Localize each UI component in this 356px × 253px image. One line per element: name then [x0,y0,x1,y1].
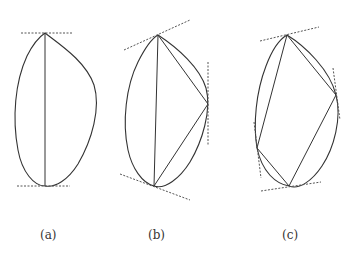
caption-a: (a) [40,228,57,242]
closed-curve-b [125,35,208,187]
closed-curve-c [255,35,338,187]
tangent-right-c [333,68,340,120]
diagram-canvas [0,0,356,253]
caption-c: (c) [282,228,298,242]
figure-c [254,27,340,191]
tangent-left-c [254,122,261,178]
chord-top-right-b [158,35,208,104]
caption-c-text: (c) [282,228,298,242]
caption-b: (b) [148,228,165,242]
chord-top-bottom-b [154,35,158,186]
tangent-top-c [260,27,319,41]
tangent-top-b [124,20,190,50]
figure-b [120,20,208,200]
figure-a [15,33,96,186]
tangent-bottom-b [120,174,190,200]
caption-a-text: (a) [40,228,57,242]
closed-curve-a [15,33,96,186]
caption-b-text: (b) [148,228,165,242]
